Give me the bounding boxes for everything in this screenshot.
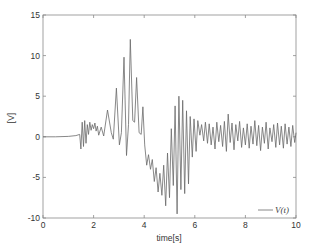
x-axis-label: time[s] xyxy=(156,233,181,243)
x-tick-label: 6 xyxy=(192,220,197,230)
legend-label: V(t) xyxy=(275,205,289,215)
y-tick-label: 5 xyxy=(35,91,40,101)
x-tick-label: 10 xyxy=(291,220,301,230)
x-tick-label: 0 xyxy=(41,220,46,230)
x-tick-label: 2 xyxy=(91,220,96,230)
y-tick-label: -10 xyxy=(28,213,41,223)
y-tick-label: 15 xyxy=(31,10,41,20)
x-tick-label: 4 xyxy=(142,220,147,230)
line-chart: 0246810 -10-5051015 time[s] [V] V(t) xyxy=(0,0,314,247)
y-tick-label: 10 xyxy=(31,51,41,61)
x-tick-label: 8 xyxy=(243,220,248,230)
y-axis-label: [V] xyxy=(6,113,16,123)
y-tick-label: 0 xyxy=(35,132,40,142)
y-tick-label: -5 xyxy=(32,172,40,182)
